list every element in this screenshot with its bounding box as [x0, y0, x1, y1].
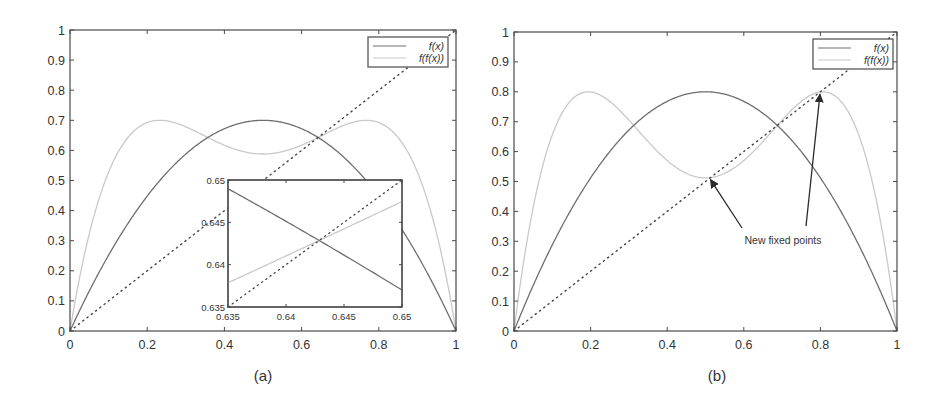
legend-a: f(x) f(f(x)) [368, 37, 448, 67]
x-tick-label: 0.6 [735, 338, 752, 352]
y-tick-label: 0.8 [48, 84, 65, 98]
legend-label-ffx: f(f(x)) [864, 54, 889, 66]
y-tick-label: 0.2 [48, 264, 65, 278]
legend-b: f(x) f(f(x)) [813, 39, 893, 69]
inset-x-tick-label: 0.64 [277, 311, 296, 322]
x-tick-label: 0.4 [659, 338, 676, 352]
x-tick-label: 0 [67, 338, 74, 352]
x-tick-label: 0.8 [812, 338, 829, 352]
inset-y-tick-label: 0.635 [201, 302, 225, 313]
diagonal-line [514, 32, 897, 331]
y-tick-label: 0.9 [492, 55, 509, 69]
panel-label-a: (a) [254, 367, 272, 384]
inset-y-tick-label: 0.65 [207, 175, 226, 186]
inset-plot-a: 0.6350.640.6450.650.6350.640.6450.65 [201, 175, 411, 323]
legend-label-ffx: f(f(x)) [419, 52, 444, 64]
y-tick-label: 1 [502, 26, 509, 40]
y-tick-label: 0.6 [492, 145, 509, 159]
inset-x-tick-label: 0.635 [216, 311, 240, 322]
y-tick-label: 1 [58, 24, 65, 38]
inset-y-tick-label: 0.645 [201, 217, 225, 228]
inset-x-tick-label: 0.65 [393, 311, 412, 322]
x-tick-label: 1 [453, 338, 460, 352]
inset-x-tick-label: 0.645 [332, 311, 356, 322]
y-tick-label: 0.1 [48, 294, 65, 308]
y-tick-label: 0.4 [48, 204, 65, 218]
legend-label-fx: f(x) [429, 40, 444, 52]
y-tick-label: 0.3 [48, 234, 65, 248]
series-ffx-line [514, 92, 897, 331]
chart-panel-a: 00.20.40.60.8100.10.20.30.40.50.60.70.80… [48, 24, 460, 385]
y-tick-label: 0.5 [492, 175, 509, 189]
annotation-arrow [710, 180, 742, 228]
y-tick-label: 0.2 [492, 265, 509, 279]
series-fx-line [514, 92, 897, 331]
y-tick-label: 0 [58, 325, 65, 339]
x-tick-label: 0.8 [370, 338, 387, 352]
x-tick-label: 0 [511, 338, 518, 352]
x-tick-label: 0.2 [139, 338, 156, 352]
x-tick-label: 1 [894, 338, 901, 352]
annotation-new-fixed-points: New fixed points [744, 234, 821, 246]
y-tick-label: 0.3 [492, 235, 509, 249]
y-tick-label: 0.8 [492, 85, 509, 99]
panel-label-b: (b) [708, 367, 726, 384]
y-tick-label: 0.7 [48, 114, 65, 128]
figure: 00.20.40.60.8100.10.20.30.40.50.60.70.80… [0, 0, 935, 409]
chart-panel-b: 00.20.40.60.8100.10.20.30.40.50.60.70.80… [492, 26, 901, 385]
y-tick-label: 0.5 [48, 174, 65, 188]
y-tick-label: 0.4 [492, 205, 509, 219]
x-tick-label: 0.6 [293, 338, 310, 352]
inset-y-tick-label: 0.64 [207, 259, 226, 270]
annotation-arrows-b [710, 94, 820, 228]
y-tick-label: 0.7 [492, 115, 509, 129]
x-tick-label: 0.4 [216, 338, 233, 352]
plot-area-b: 00.20.40.60.8100.10.20.30.40.50.60.70.80… [492, 26, 901, 353]
y-tick-label: 0.6 [48, 144, 65, 158]
y-tick-label: 0.9 [48, 54, 65, 68]
x-tick-label: 0.2 [582, 338, 599, 352]
legend-label-fx: f(x) [874, 42, 889, 54]
y-tick-label: 0 [502, 325, 509, 339]
y-tick-label: 0.1 [492, 295, 509, 309]
